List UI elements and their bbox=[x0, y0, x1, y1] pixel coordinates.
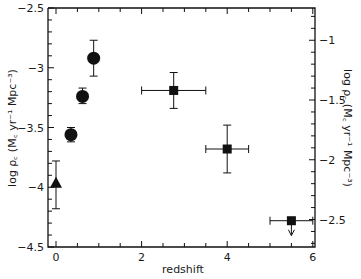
chart: 0246−2.5−3−3.5−4−4.5−1−1.5−2−2.5 redshif… bbox=[0, 0, 361, 279]
circle-marker bbox=[87, 52, 100, 65]
y-axis-title-left: log ρ꜀ (M꜀ yr⁻¹ Mpc⁻³) bbox=[6, 69, 19, 187]
square-marker bbox=[169, 86, 178, 95]
y-right-tick-label: −2.5 bbox=[319, 214, 346, 227]
square-marker bbox=[223, 145, 232, 154]
y-tick-label: −3.5 bbox=[17, 122, 44, 135]
x-tick-label: 0 bbox=[53, 251, 60, 264]
plot-frame bbox=[48, 8, 315, 247]
x-tick-label: 6 bbox=[309, 251, 316, 264]
y-tick-label: −3 bbox=[28, 62, 44, 75]
x-tick-label: 2 bbox=[138, 251, 145, 264]
y-right-tick-label: −1 bbox=[319, 34, 335, 47]
data-points bbox=[50, 40, 313, 235]
y-axis-title-right: log ρ꜀ (M꜀ yr⁻¹ Mpc⁻³) bbox=[341, 69, 354, 187]
x-tick-label: 4 bbox=[224, 251, 231, 264]
axis-ticks bbox=[48, 8, 315, 247]
y-right-tick-label: −2 bbox=[319, 154, 335, 167]
y-tick-label: −4.5 bbox=[17, 241, 44, 254]
circle-marker bbox=[76, 90, 89, 103]
y-tick-label: −2.5 bbox=[17, 2, 44, 15]
y-tick-label: −4 bbox=[28, 181, 44, 194]
circle-marker bbox=[64, 128, 77, 141]
axes-box bbox=[48, 8, 315, 247]
triangle-marker bbox=[50, 177, 62, 188]
x-axis-title: redshift bbox=[162, 263, 204, 276]
